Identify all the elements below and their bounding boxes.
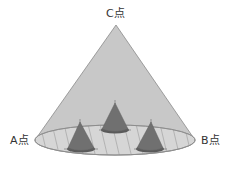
cone-diagram <box>0 0 230 175</box>
point-label-a: A点 <box>10 135 29 147</box>
point-label-b: B点 <box>201 135 220 147</box>
apex-label-c: C点 <box>106 8 125 20</box>
diagram-canvas: C点 A点 B点 <box>0 0 230 175</box>
